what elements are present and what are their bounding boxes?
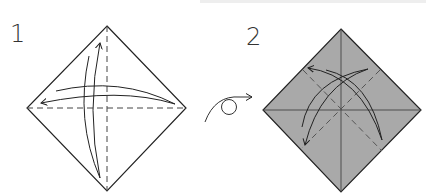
turnover-icon (205, 97, 252, 122)
origami-diagram (0, 0, 426, 193)
step-2-diagram (263, 29, 421, 192)
step-1-diagram (27, 26, 186, 191)
paper-square-gray (263, 29, 421, 192)
